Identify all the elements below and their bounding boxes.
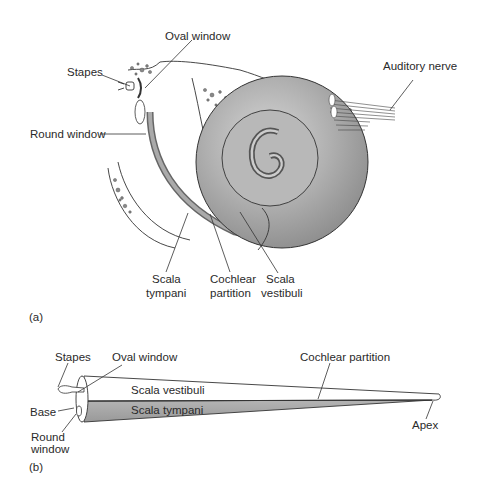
scala-tympani-wall — [108, 162, 190, 248]
leader-oval-window — [145, 40, 192, 88]
leader-auditory-nerve — [390, 80, 413, 110]
label-apex: Apex — [412, 419, 438, 431]
leader-apex — [426, 401, 433, 419]
label-oval-window-b: Oval window — [112, 351, 178, 363]
panel-label-a: (a) — [29, 311, 43, 323]
label-stapes: Stapes — [67, 66, 103, 78]
label-scala-vestibuli-2: vestibuli — [261, 287, 303, 299]
leader-round-window-b — [62, 414, 76, 432]
label-oval-window: Oval window — [165, 30, 231, 42]
label-scala-vestibuli-1: Scala — [266, 273, 295, 285]
label-base: Base — [30, 406, 56, 418]
label-stapes-b: Stapes — [55, 351, 91, 363]
cochlea-diagram: Oval window Stapes Auditory nerve Round … — [0, 0, 477, 503]
label-round-window-b-1: Round — [31, 431, 65, 443]
label-scala-tympani-2: tympani — [146, 287, 186, 299]
cochlea-inner-turn — [222, 110, 318, 206]
figure-a: Oval window Stapes Auditory nerve Round … — [29, 30, 457, 323]
round-window-b — [77, 406, 82, 416]
leader-stapes-b — [58, 363, 68, 387]
figure-b: Stapes Oval window Cochlear partition Sc… — [29, 351, 440, 473]
label-scala-tympani-b: Scala tympani — [131, 404, 203, 416]
round-window-chamber — [135, 100, 145, 124]
label-round-window-b-2: window — [30, 443, 70, 455]
oval-window-membrane — [138, 78, 141, 98]
label-scala-tympani-1: Scala — [152, 273, 181, 285]
leader-scala-tympani — [166, 213, 188, 272]
leader-stapes — [102, 75, 130, 86]
label-cochlear-partition-1: Cochlear — [210, 273, 256, 285]
label-cochlear-partition-2: partition — [210, 287, 251, 299]
stapes-a — [118, 82, 134, 90]
label-cochlear-partition-b: Cochlear partition — [300, 351, 390, 363]
leader-base — [58, 408, 74, 411]
label-scala-vestibuli-b: Scala vestibuli — [131, 384, 205, 396]
label-round-window: Round window — [30, 128, 106, 140]
panel-label-b: (b) — [29, 461, 43, 473]
label-auditory-nerve: Auditory nerve — [383, 60, 457, 72]
